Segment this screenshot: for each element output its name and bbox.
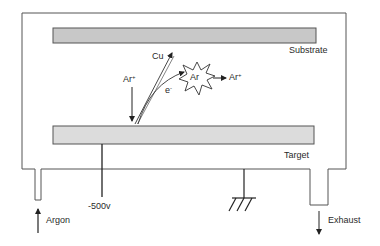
ground-icon: [229, 169, 256, 211]
voltage-label: -500v: [88, 202, 111, 211]
sputter-diagram: [0, 0, 380, 246]
copper-label: Cu: [152, 52, 164, 61]
substrate-plate: [53, 28, 316, 43]
ar-ion-label: Ar+: [123, 75, 136, 84]
electron-label: e-: [165, 86, 172, 95]
exhaust-label: Exhaust: [328, 216, 361, 225]
argon-label: Argon: [46, 216, 70, 225]
ar-ion-out-base: Ar: [229, 72, 238, 82]
target-label: Target: [284, 151, 309, 160]
ar-ion-base: Ar: [123, 74, 132, 84]
target-plate: [53, 126, 314, 144]
ar-ion-charge: +: [132, 74, 136, 80]
substrate-label: Substrate: [289, 46, 328, 55]
ar-ion-out-label: Ar+: [229, 73, 242, 82]
electron-charge: -: [170, 85, 172, 91]
ar-neutral-label: Ar: [190, 73, 199, 82]
ar-ion-out-charge: +: [238, 72, 242, 78]
